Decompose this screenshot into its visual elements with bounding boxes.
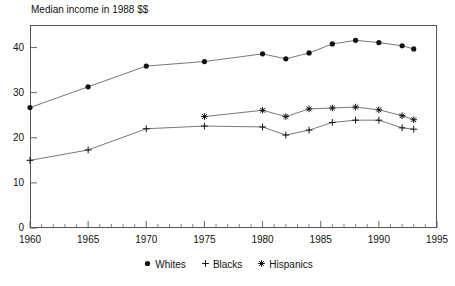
- legend-label: Blacks: [213, 259, 242, 271]
- y-tick-label: 20: [2, 133, 24, 143]
- legend-entry-whites: Whites: [142, 258, 186, 270]
- y-tick-label: 40: [2, 43, 24, 53]
- x-tick-label: 1970: [126, 235, 166, 245]
- x-tick-label: 1995: [417, 235, 455, 245]
- y-tick-label: 0: [2, 223, 24, 233]
- legend-marker-plus-icon: [200, 258, 211, 269]
- y-tick-label: 30: [2, 88, 24, 98]
- x-tick-label: 1980: [243, 235, 283, 245]
- x-tick-label: 1975: [184, 235, 224, 245]
- x-tick-label: 1965: [68, 235, 108, 245]
- legend-marker-star-icon: [256, 258, 267, 269]
- legend-label: Whites: [155, 259, 186, 271]
- x-tick-label: 1960: [10, 235, 50, 245]
- chart-title: Median income in 1988 $$: [31, 4, 148, 16]
- chart-legend: WhitesBlacksHispanics: [0, 258, 455, 271]
- y-tick-label: 10: [2, 178, 24, 188]
- plot-area: [30, 25, 437, 228]
- legend-entry-blacks: Blacks: [200, 258, 242, 270]
- legend-entry-hispanics: Hispanics: [256, 258, 312, 270]
- chart-figure: Median income in 1988 $$ 403020100 19601…: [0, 0, 455, 286]
- legend-marker-filled-circle-icon: [142, 258, 153, 269]
- x-tick-label: 1985: [301, 235, 341, 245]
- legend-label: Hispanics: [269, 259, 312, 271]
- x-tick-label: 1990: [359, 235, 399, 245]
